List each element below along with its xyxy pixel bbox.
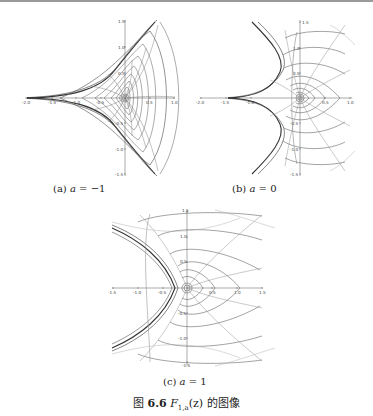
panel-c-caption: (c) a = 1 [163, 376, 207, 387]
panel-c-param-name: a [180, 376, 186, 387]
panel-b-caption: (b) a = 0 [232, 183, 277, 194]
panel-c-label: (c) [163, 376, 176, 387]
panel-b-svg: -2.0 -1.5 -1.0 0.5 1.0 1.5 1.0 0.5 -0.5 … [185, 0, 373, 185]
panel-b-param-value: 0 [270, 183, 276, 194]
panel-a-caption: (a) a = −1 [53, 183, 105, 194]
figure-title-suffix: 的图像 [207, 397, 240, 410]
svg-text:1.0: 1.0 [180, 234, 187, 239]
svg-text:-1.0: -1.0 [178, 336, 187, 341]
figure-title-prefix: 图 [133, 397, 144, 410]
figure-argument: (z) [189, 397, 203, 410]
panel-c-svg: -1.5 -1.0 -0.5 0.5 1.0 1.5 1.5 1.0 0.5 -… [100, 200, 280, 370]
panel-b-label: (b) [232, 183, 246, 194]
figure-title: 图 6.6 F1,a(z) 的图像 [133, 394, 240, 412]
svg-text:1.0: 1.0 [118, 45, 125, 50]
svg-text:1.0: 1.0 [347, 100, 354, 105]
panel-c-plot: -1.5 -1.0 -0.5 0.5 1.0 1.5 1.5 1.0 0.5 -… [100, 200, 280, 370]
svg-text:-2.0: -2.0 [196, 100, 205, 105]
svg-text:-1.5: -1.5 [115, 172, 124, 177]
svg-text:-1.5: -1.5 [182, 363, 191, 368]
panel-c-param-value: 1 [200, 376, 206, 387]
svg-text:1.5: 1.5 [118, 19, 125, 24]
panel-b-axes [200, 20, 352, 176]
panel-a-plot: -2.0 -1.5 -1.0 -0.5 0.5 1.0 1.5 1.0 0.5 … [0, 0, 190, 185]
panel-a-svg: -2.0 -1.5 -1.0 -0.5 0.5 1.0 1.5 1.0 0.5 … [0, 0, 190, 185]
svg-text:-0.5: -0.5 [290, 121, 299, 126]
panel-a-label: (a) [53, 183, 67, 194]
panel-b-tick-labels: -2.0 -1.5 -1.0 0.5 1.0 1.5 1.0 0.5 -0.5 … [196, 20, 354, 177]
panel-a-param-name: a [70, 183, 76, 194]
equals-sign: = [259, 183, 267, 194]
svg-text:0.5: 0.5 [180, 259, 187, 264]
svg-text:1.5: 1.5 [259, 290, 266, 295]
svg-text:-1.5: -1.5 [221, 100, 230, 105]
svg-text:-0.5: -0.5 [158, 290, 167, 295]
panel-a-param-value: −1 [91, 183, 106, 194]
figure-number: 6.6 [148, 397, 167, 410]
svg-text:0.5: 0.5 [146, 100, 153, 105]
svg-text:-2.0: -2.0 [22, 100, 31, 105]
svg-text:-1.0: -1.0 [115, 147, 124, 152]
svg-text:1.5: 1.5 [302, 20, 309, 25]
figure-function: F [170, 397, 178, 410]
svg-text:-1.5: -1.5 [290, 172, 299, 177]
svg-text:1.5: 1.5 [182, 208, 189, 213]
panel-a-axes [25, 20, 175, 176]
svg-text:-1.0: -1.0 [133, 290, 142, 295]
figure-subscript: 1,a [178, 404, 189, 412]
panel-b-param-name: a [249, 183, 255, 194]
svg-text:-1.5: -1.5 [108, 290, 117, 295]
equals-sign: = [79, 183, 87, 194]
panel-b-plot: -2.0 -1.5 -1.0 0.5 1.0 1.5 1.0 0.5 -0.5 … [185, 0, 373, 185]
equals-sign: = [189, 376, 197, 387]
svg-text:1.0: 1.0 [171, 100, 178, 105]
